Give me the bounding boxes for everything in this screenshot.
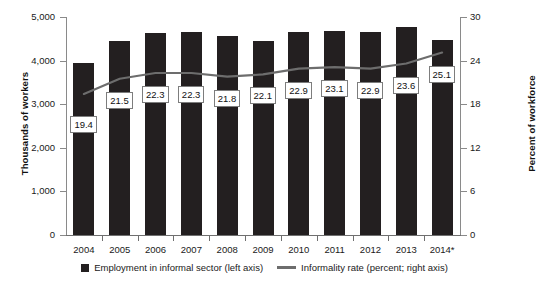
bar-2010 <box>288 32 309 235</box>
x-tick-mark <box>281 236 282 241</box>
y-tick-mark-left <box>60 191 66 192</box>
y-tick-mark-left <box>60 104 66 105</box>
y-tick-mark-right <box>461 235 467 236</box>
bar-2011 <box>324 31 345 235</box>
y-tick-label-left: 1,000 <box>31 186 55 196</box>
x-tick-label: 2006 <box>138 244 174 255</box>
y-tick-label-right: 6 <box>470 186 475 196</box>
bar-2013 <box>396 27 417 235</box>
square-marker-icon <box>81 264 89 272</box>
y-tick-label-left: 5,000 <box>31 12 55 22</box>
y-axis-label-left: Thousands of workers <box>19 44 30 204</box>
y-tick-mark-right <box>461 17 467 18</box>
x-tick-label: 2012 <box>353 244 389 255</box>
bar-2012 <box>360 32 381 235</box>
y-axis-label-right: Percent of workforce <box>526 44 537 204</box>
data-label-2012: 22.9 <box>357 82 384 99</box>
data-label-2013: 23.6 <box>393 77 420 94</box>
y-tick-label-left: 2,000 <box>31 143 55 153</box>
x-tick-mark <box>353 236 354 241</box>
x-tick-mark <box>138 236 139 241</box>
y-tick-mark-left <box>60 17 66 18</box>
x-tick-label: 2007 <box>173 244 209 255</box>
legend-item-informality-rate: Informality rate (percent; right axis) <box>277 262 448 273</box>
legend-label-informality-rate: Informality rate (percent; right axis) <box>301 262 448 273</box>
x-tick-label: 2010 <box>281 244 317 255</box>
y-tick-label-right: 18 <box>470 99 481 109</box>
x-tick-mark <box>173 236 174 241</box>
y-tick-label-right: 30 <box>470 12 481 22</box>
y-tick-mark-left <box>60 148 66 149</box>
x-tick-mark <box>209 236 210 241</box>
x-tick-label: 2014* <box>424 244 460 255</box>
y-tick-label-left: 0 <box>50 230 55 240</box>
data-label-2006: 22.3 <box>142 86 169 103</box>
x-tick-label: 2009 <box>245 244 281 255</box>
y-tick-label-right: 0 <box>470 230 475 240</box>
y-tick-mark-right <box>461 104 467 105</box>
line-marker-icon <box>277 266 296 269</box>
bar-2009 <box>253 41 274 235</box>
y-tick-label-right: 12 <box>470 143 481 153</box>
x-tick-label: 2004 <box>66 244 102 255</box>
bar-2008 <box>217 36 238 235</box>
bar-2007 <box>181 32 202 235</box>
x-tick-mark <box>317 236 318 241</box>
x-tick-mark <box>388 236 389 241</box>
x-tick-mark <box>245 236 246 241</box>
legend-label-employment: Employment in informal sector (left axis… <box>94 262 263 273</box>
bar-2004 <box>73 63 94 235</box>
y-tick-mark-left <box>60 235 66 236</box>
y-axis-left-line <box>66 17 67 236</box>
bar-2005 <box>109 41 130 235</box>
x-tick-mark <box>102 236 103 241</box>
y-tick-mark-right <box>461 191 467 192</box>
data-label-2010: 22.9 <box>285 82 312 99</box>
y-tick-label-right: 24 <box>470 56 481 66</box>
data-label-2009: 22.1 <box>250 87 277 104</box>
data-label-2004: 19.4 <box>70 116 97 133</box>
data-label-2014: 25.1 <box>429 66 456 83</box>
x-tick-label: 2011 <box>317 244 353 255</box>
y-tick-mark-right <box>461 148 467 149</box>
x-tick-mark <box>424 236 425 241</box>
y-tick-mark-left <box>60 61 66 62</box>
y-tick-label-left: 3,000 <box>31 99 55 109</box>
y-tick-mark-right <box>461 61 467 62</box>
bar-2006 <box>145 33 166 235</box>
legend-item-employment: Employment in informal sector (left axis… <box>81 262 263 273</box>
x-axis-line <box>66 235 461 236</box>
y-axis-right-line <box>460 17 461 236</box>
x-tick-label: 2008 <box>209 244 245 255</box>
data-label-2005: 21.5 <box>106 92 133 109</box>
y-tick-label-left: 4,000 <box>31 56 55 66</box>
data-label-2007: 22.3 <box>178 86 205 103</box>
data-label-2008: 21.8 <box>214 90 241 107</box>
x-tick-label: 2013 <box>388 244 424 255</box>
x-tick-label: 2005 <box>102 244 138 255</box>
data-label-2011: 23.1 <box>321 80 348 97</box>
chart-legend: Employment in informal sector (left axis… <box>0 262 529 273</box>
